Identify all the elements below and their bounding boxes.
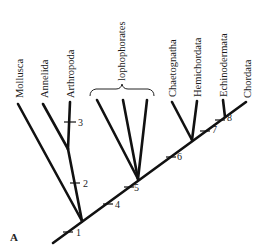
branch-chaetognatha xyxy=(172,102,192,140)
taxon-label-arthropoda: Arthropoda xyxy=(65,49,76,98)
panel-label: A xyxy=(10,231,18,243)
branch-arthropoda xyxy=(68,102,70,149)
node-label-3: 3 xyxy=(78,117,83,128)
taxon-label-mollusca: Mollusca xyxy=(14,59,25,98)
node-label-7: 7 xyxy=(212,124,217,135)
branch-annelida xyxy=(43,104,68,149)
branch-lophophorate-3 xyxy=(138,100,147,179)
node-label-4: 4 xyxy=(115,199,120,210)
node-label-2: 2 xyxy=(83,178,88,189)
taxon-label-chaetognatha: Chaetognatha xyxy=(167,39,178,97)
taxon-label-lophophorates: lophophorates xyxy=(116,22,127,82)
branch-hemichordata xyxy=(192,101,197,140)
node-label-6: 6 xyxy=(177,151,182,162)
taxon-label-echinodermata: Echinodermata xyxy=(218,33,229,97)
node-label-8: 8 xyxy=(227,112,232,123)
taxon-label-hemichordata: Hemichordata xyxy=(192,37,203,97)
branch-lophophorate-1 xyxy=(97,100,138,179)
node-label-5: 5 xyxy=(134,182,139,193)
branch-echinodermata xyxy=(223,100,225,117)
phylogenetic-tree: 1 2 3 4 5 6 7 8 Mollusca Annelida Arthro… xyxy=(0,0,266,251)
taxon-label-chordata: Chordata xyxy=(242,59,253,98)
taxon-label-annelida: Annelida xyxy=(39,59,50,98)
lophophorates-brace xyxy=(90,84,154,96)
node-label-1: 1 xyxy=(76,227,81,238)
